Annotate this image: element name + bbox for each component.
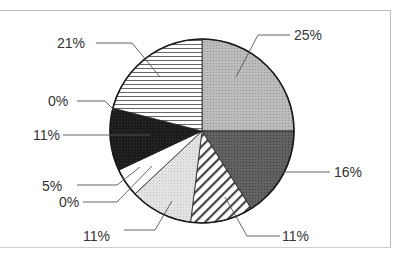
label-16: 16%: [334, 164, 362, 180]
label-11-light: 11%: [83, 228, 110, 244]
pie-slices: [110, 39, 294, 223]
label-11-hatched: 11%: [282, 228, 309, 244]
label-21: 21%: [57, 35, 85, 51]
pie-chart: 25% 16% 11% 11% 0% 5% 11% 0% 21%: [0, 0, 397, 255]
label-0-upper: 0%: [48, 93, 68, 109]
label-11-dark: 11%: [33, 127, 60, 143]
label-25: 25%: [294, 27, 322, 43]
label-0-lower: 0%: [59, 194, 79, 210]
label-5: 5%: [42, 178, 62, 194]
slice-25: [202, 39, 294, 131]
